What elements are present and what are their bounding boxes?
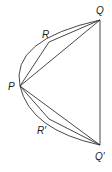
label-r-prime: R′ <box>37 125 47 136</box>
parabola-diagram: Q R P R′ Q′ <box>0 0 112 172</box>
line-p-r <box>20 42 49 86</box>
label-q: Q <box>96 5 104 16</box>
line-r-q <box>49 20 100 42</box>
line-p-q <box>20 20 100 86</box>
label-q-prime: Q′ <box>95 151 106 162</box>
label-r: R <box>42 29 49 40</box>
parabola-arc <box>19 20 100 145</box>
line-rprime-qprime <box>49 119 100 145</box>
label-p: P <box>8 81 15 92</box>
line-p-qprime <box>20 86 100 145</box>
